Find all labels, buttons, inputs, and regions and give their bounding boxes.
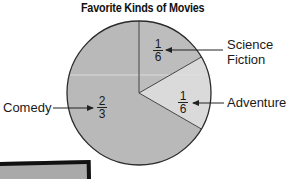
fraction-science-fiction: 16 <box>153 39 163 63</box>
label-comedy: Comedy <box>3 100 51 115</box>
pie-chart <box>0 0 286 179</box>
label-science-fiction: Science Fiction <box>227 37 273 67</box>
fraction-comedy: 23 <box>97 96 107 120</box>
label-adventure: Adventure <box>227 95 286 110</box>
cropped-gray-panel <box>0 160 91 179</box>
fraction-adventure: 16 <box>178 91 188 115</box>
